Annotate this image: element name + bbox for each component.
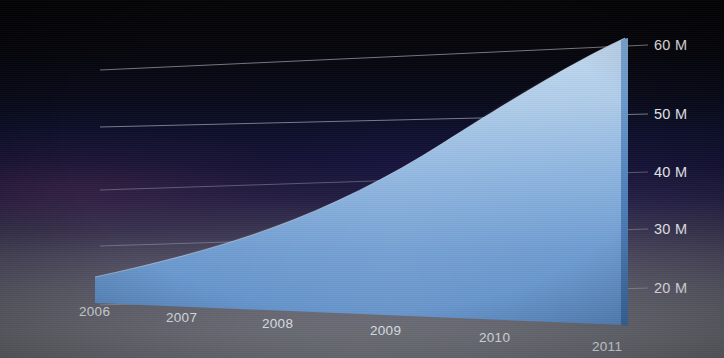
x-tick-label-2010: 2010	[479, 330, 510, 345]
gridline-60m	[100, 45, 648, 70]
area-chart-plot: 60 M 50 M 40 M 30 M 20 M 2006 2007 2008 …	[0, 0, 724, 358]
x-tick-label-2011: 2011	[592, 339, 622, 354]
y-tick-label-40m: 40 M	[654, 164, 687, 180]
y-tick-label-50m: 50 M	[654, 106, 687, 122]
y-tick-label-30m: 30 M	[654, 221, 687, 237]
x-tick-label-2007: 2007	[166, 310, 197, 325]
x-tick-label-2006: 2006	[79, 304, 110, 319]
area-series-users	[95, 30, 635, 330]
y-tick-label-20m: 20 M	[654, 280, 687, 296]
y-tick-label-60m: 60 M	[654, 37, 687, 53]
chart-container: 60 M 50 M 40 M 30 M 20 M 2006 2007 2008 …	[0, 0, 724, 358]
y-axis-labels: 60 M 50 M 40 M 30 M 20 M	[654, 37, 687, 296]
x-tick-label-2008: 2008	[262, 316, 293, 331]
x-tick-label-2009: 2009	[370, 323, 401, 338]
